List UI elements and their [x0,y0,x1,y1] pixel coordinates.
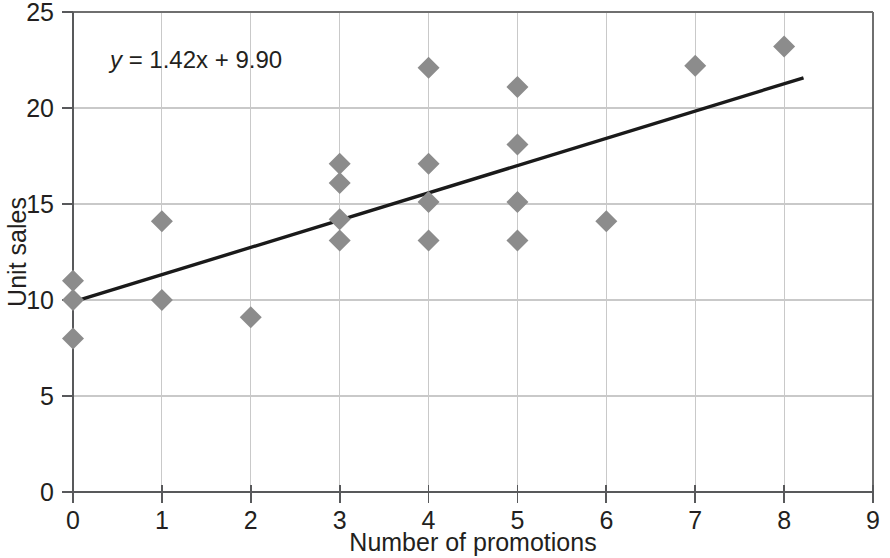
vertical-gridlines [162,12,784,492]
y-tick-label: 0 [40,478,54,506]
y-axis-tickmarks [62,12,73,492]
regression-equation-label: y = 1.42x + 9.90 [108,46,282,73]
x-tick-label: 3 [333,506,347,534]
data-point-marker [773,36,795,58]
data-point-marker [329,153,351,175]
x-tick-label: 6 [599,506,613,534]
x-axis-title: Number of promotions [349,528,596,556]
chart-canvas: 0123456789 0510152025 y = 1.42x + 9.90 N… [0,0,890,558]
y-tick-label: 20 [26,94,54,122]
horizontal-gridlines [73,108,873,396]
y-tick-label: 25 [26,0,54,26]
data-point-marker [595,210,617,232]
y-axis-title: Unit sales [3,197,31,307]
scatter-plot-figure: 0123456789 0510152025 y = 1.42x + 9.90 N… [0,0,890,558]
x-tick-label: 8 [777,506,791,534]
data-point-marker [506,133,528,155]
data-point-marker [151,289,173,311]
data-point-marker [329,229,351,251]
data-point-marker [506,76,528,98]
data-point-marker [62,327,84,349]
x-tick-label: 2 [244,506,258,534]
data-point-marker [506,229,528,251]
y-tick-label: 5 [40,382,54,410]
trendline [73,78,802,302]
data-point-marker [240,306,262,328]
x-tick-label: 9 [866,506,880,534]
x-axis-tickmarks [73,485,873,503]
data-point-marker [151,210,173,232]
data-point-marker [418,153,440,175]
data-point-marker [684,55,706,77]
plot-axes [73,12,873,492]
x-tick-label: 1 [155,506,169,534]
trendline-segment [73,78,802,302]
data-point-marker [418,57,440,79]
x-tick-label: 0 [66,506,80,534]
data-point-marker [62,289,84,311]
data-point-marker [329,172,351,194]
data-point-marker [506,191,528,213]
data-point-marker [329,208,351,230]
data-point-marker [62,270,84,292]
x-tick-label: 7 [688,506,702,534]
plot-frame [73,12,873,492]
data-point-marker [418,229,440,251]
equation-body: = 1.42x + 9.90 [122,46,282,73]
